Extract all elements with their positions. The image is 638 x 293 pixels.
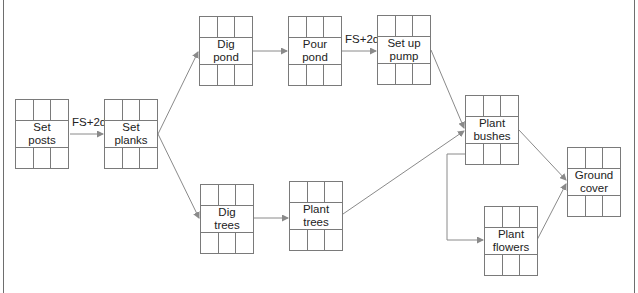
top-row	[290, 182, 342, 203]
bottom-cell	[16, 148, 34, 168]
node-label: Set up pump	[378, 37, 430, 63]
bottom-cell	[307, 65, 325, 85]
top-cell	[378, 16, 396, 36]
node-set-posts[interactable]: Set posts	[15, 99, 69, 169]
top-row	[378, 16, 430, 37]
top-row	[568, 148, 620, 169]
link-plant-bushes-ground-cover	[519, 130, 566, 180]
bottom-cell	[219, 233, 237, 253]
node-set-planks[interactable]: Set planks	[104, 99, 158, 169]
bottom-cell	[466, 144, 484, 164]
top-row	[105, 100, 157, 121]
top-row	[201, 185, 253, 206]
top-cell	[501, 96, 518, 116]
node-plant-bushes[interactable]: Plant bushes	[465, 95, 519, 165]
top-cell	[466, 96, 484, 116]
top-cell	[308, 182, 326, 202]
top-cell	[307, 17, 325, 37]
lag-label-pour-pond-set-up-pump: FS+2d	[345, 33, 379, 45]
top-cell	[484, 96, 502, 116]
top-cell	[324, 17, 341, 37]
bottom-cell	[308, 230, 326, 250]
link-set-up-pump-plant-bushes	[431, 50, 464, 128]
link-plant-bushes-plant-flowers	[447, 154, 483, 240]
node-plant-flowers[interactable]: Plant flowers	[484, 206, 538, 276]
node-label: Ground cover	[568, 169, 620, 195]
node-pour-pond[interactable]: Pour pond	[288, 16, 342, 86]
bottom-row	[289, 64, 341, 85]
bottom-row	[378, 63, 430, 84]
bottom-cell	[236, 233, 253, 253]
bottom-cell	[586, 196, 604, 216]
bottom-cell	[201, 233, 219, 253]
node-label: Plant bushes	[466, 117, 518, 143]
top-cell	[16, 100, 34, 120]
top-cell	[51, 100, 68, 120]
top-cell	[289, 17, 307, 37]
top-cell	[485, 207, 503, 227]
top-cell	[123, 100, 141, 120]
bottom-cell	[140, 148, 157, 168]
bottom-cell	[235, 65, 252, 85]
bottom-cell	[105, 148, 123, 168]
bottom-cell	[396, 64, 414, 84]
bottom-cell	[413, 64, 430, 84]
bottom-cell	[378, 64, 396, 84]
node-dig-trees[interactable]: Dig trees	[200, 184, 254, 254]
bottom-cell	[603, 196, 620, 216]
bottom-row	[16, 147, 68, 168]
lag-label-set-posts-set-planks: FS+2d	[72, 116, 106, 128]
top-row	[16, 100, 68, 121]
bottom-row	[485, 254, 537, 275]
bottom-row	[290, 229, 342, 250]
node-label: Plant flowers	[485, 228, 537, 254]
node-set-up-pump[interactable]: Set up pump	[377, 15, 431, 85]
top-cell	[503, 207, 521, 227]
bottom-cell	[324, 65, 341, 85]
top-row	[200, 17, 252, 38]
top-cell	[586, 148, 604, 168]
link-plant-trees-plant-bushes	[343, 131, 464, 214]
top-cell	[200, 17, 218, 37]
bottom-cell	[123, 148, 141, 168]
top-cell	[520, 207, 537, 227]
bottom-cell	[501, 144, 518, 164]
top-cell	[568, 148, 586, 168]
bottom-cell	[218, 65, 236, 85]
top-cell	[218, 17, 236, 37]
bottom-cell	[325, 230, 342, 250]
bottom-cell	[484, 144, 502, 164]
bottom-row	[466, 143, 518, 164]
top-cell	[325, 182, 342, 202]
node-label: Plant trees	[290, 203, 342, 229]
bottom-cell	[503, 255, 521, 275]
bottom-row	[201, 232, 253, 253]
link-plant-flowers-ground-cover	[537, 184, 566, 240]
node-plant-trees[interactable]: Plant trees	[289, 181, 343, 251]
bottom-row	[568, 195, 620, 216]
top-cell	[603, 148, 620, 168]
link-set-planks-dig-trees	[158, 134, 199, 218]
bottom-cell	[520, 255, 537, 275]
top-row	[289, 17, 341, 38]
top-cell	[235, 17, 252, 37]
top-cell	[396, 16, 414, 36]
top-cell	[236, 185, 253, 205]
node-label: Set posts	[16, 121, 68, 147]
bottom-cell	[290, 230, 308, 250]
top-row	[466, 96, 518, 117]
node-dig-pond[interactable]: Dig pond	[199, 16, 253, 86]
node-label: Dig pond	[200, 38, 252, 64]
link-set-planks-dig-pond	[158, 52, 198, 134]
bottom-cell	[34, 148, 52, 168]
bottom-row	[105, 147, 157, 168]
node-label: Set planks	[105, 121, 157, 147]
top-cell	[140, 100, 157, 120]
node-label: Pour pond	[289, 38, 341, 64]
top-cell	[201, 185, 219, 205]
top-cell	[105, 100, 123, 120]
node-ground-cover[interactable]: Ground cover	[567, 147, 621, 217]
bottom-cell	[200, 65, 218, 85]
top-cell	[219, 185, 237, 205]
bottom-cell	[485, 255, 503, 275]
